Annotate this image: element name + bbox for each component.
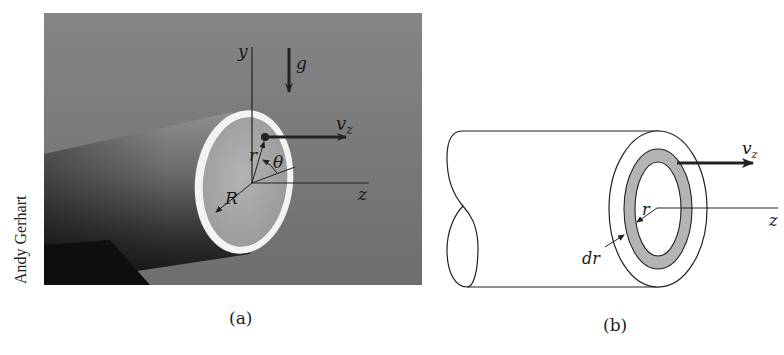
label-r: r [249,145,258,165]
label-R: R [224,188,238,208]
pipe-shell-diagram: vz r z dr [440,0,784,355]
label-vz-b: vz [742,138,758,161]
label-r-b: r [642,200,651,219]
label-dr: dr [582,249,601,268]
panel-a-photo: y g vz r θ R z Andy Gerhart (a) [0,0,440,355]
label-y: y [237,41,248,61]
caption-b: (b) [603,315,627,335]
label-z: z [357,184,368,204]
caption-a: (a) [229,308,252,328]
photo-credit: Andy Gerhart [12,196,30,284]
panel-b-drawing: vz r z dr (b) [440,0,784,355]
label-theta: θ [273,152,283,172]
pipe-photo-illustration: y g vz r θ R z [0,0,440,355]
label-z-b: z [768,211,778,230]
label-g: g [296,53,307,73]
